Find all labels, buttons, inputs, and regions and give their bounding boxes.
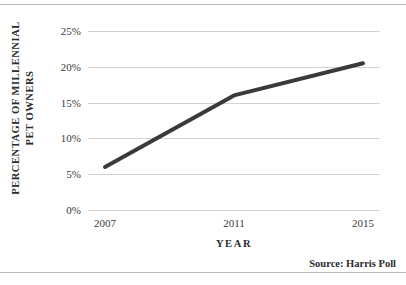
gridline — [88, 210, 380, 211]
x-axis-tick-label: 2011 — [223, 217, 245, 229]
x-axis-tick-label: 2007 — [94, 217, 116, 229]
y-axis-tick-label: 25% — [61, 25, 81, 37]
x-axis-title: YEAR — [88, 238, 380, 249]
plot-area: 0%5%10%15%20%25% — [88, 31, 380, 210]
y-axis-title: PERCENTAGE OF MILLENNIAL PET OWNERS — [0, 0, 46, 215]
y-axis-title-line-2: PET OWNERS — [23, 21, 37, 195]
line-series — [88, 31, 380, 210]
y-axis-title-line-1: PERCENTAGE OF MILLENNIAL — [10, 21, 21, 195]
y-axis-tick-label: 15% — [61, 97, 81, 109]
y-axis-tick-label: 20% — [61, 61, 81, 73]
millennial-pet-owners-line — [105, 63, 363, 167]
top-divider-rule — [0, 4, 406, 5]
source-attribution: Source: Harris Poll — [309, 258, 396, 269]
x-axis-tick-label: 2015 — [352, 217, 374, 229]
chart-figure: PERCENTAGE OF MILLENNIAL PET OWNERS 0%5%… — [0, 0, 406, 285]
y-axis-tick-label: 10% — [61, 132, 81, 144]
bottom-divider-rule — [0, 272, 406, 273]
y-axis-tick-label: 0% — [66, 204, 81, 216]
y-axis-tick-label: 5% — [66, 168, 81, 180]
